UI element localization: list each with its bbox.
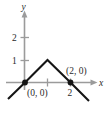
graph-figure: y x 1 2 2 (0, 0) (2, 0) [0,0,108,115]
x-tick-label-2: 2 [68,88,73,98]
point-marker-origin [22,80,28,86]
y-tick-label-2: 2 [12,33,17,43]
point-label-origin: (0, 0) [27,88,48,99]
x-axis-arrowhead [91,80,98,86]
point-label-two-zero: (2, 0) [66,66,87,77]
y-axis-label: y [21,2,27,12]
x-axis-label: x [98,78,104,88]
y-tick-label-1: 1 [12,56,17,66]
coordinate-plane-svg: y x 1 2 2 (0, 0) (2, 0) [0,0,108,115]
point-marker-two-zero [68,80,74,86]
